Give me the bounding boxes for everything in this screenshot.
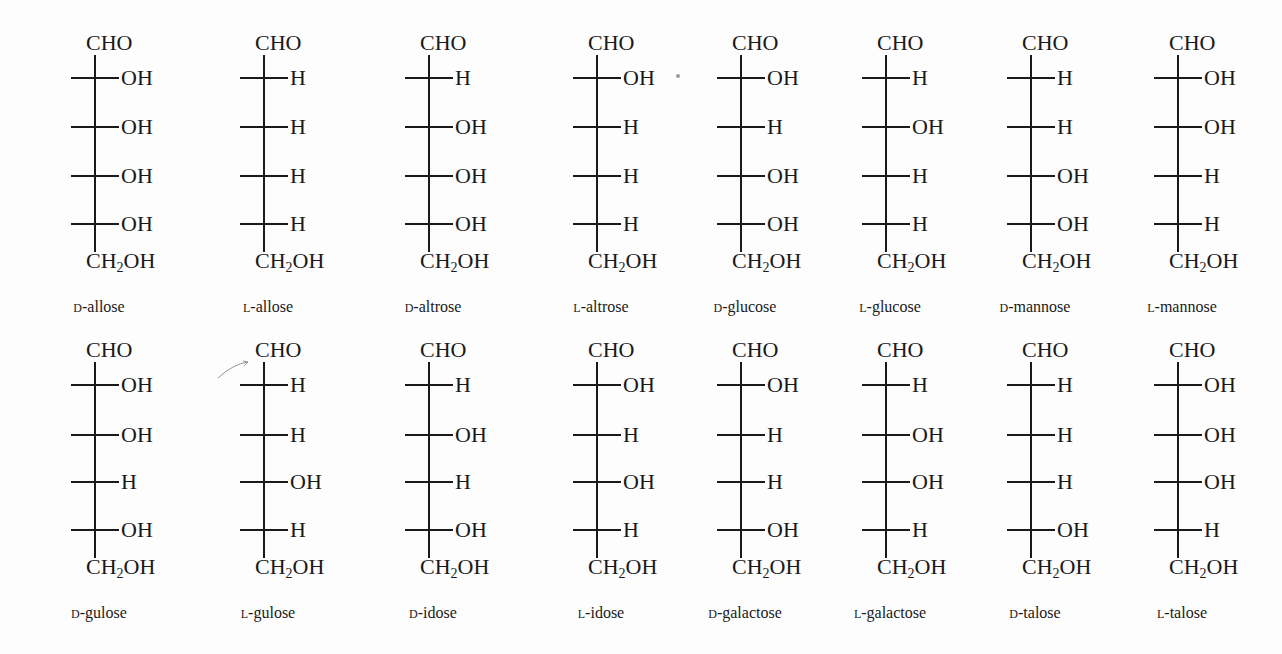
fischer-projection-chart: CHOHOHHOHHOHHOHCH2OHD-alloseCHOHOHHOHHOH… <box>0 0 1282 654</box>
pencil-arrow-mark <box>0 0 1282 654</box>
